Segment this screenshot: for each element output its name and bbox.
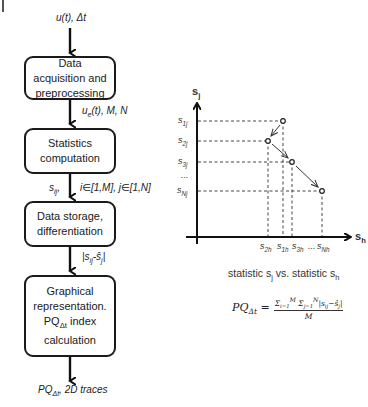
data-points bbox=[266, 119, 325, 194]
output-label: PQΔt, 2D traces bbox=[38, 384, 107, 397]
x-tick-s1h: s1h bbox=[277, 241, 289, 253]
pq-formula: PQΔt = Σi=1M Σj=1N|sij−ŝj| M bbox=[232, 296, 343, 321]
y-tick-s1j: s1j bbox=[178, 115, 187, 127]
step-graphical-representation: Graphicalrepresentation.PQΔt indexcalcul… bbox=[24, 275, 116, 357]
y-tick-s3j: s3j bbox=[178, 156, 187, 168]
step-statistics-computation: Statistics computation bbox=[24, 128, 116, 174]
formula-lhs: PQΔt = bbox=[232, 301, 270, 316]
x-tick-sNh: sNh bbox=[317, 241, 330, 253]
y-tick-ellipsis: ... bbox=[181, 170, 189, 180]
edge-label-indices: i∈[1,M], j∈[1,N] bbox=[80, 182, 151, 193]
formula-numerator: Σi=1M Σj=1N|sij−ŝj| bbox=[274, 296, 344, 311]
x-axis-label: sh bbox=[355, 230, 366, 245]
plot-caption: statistic sj vs. statistic sh bbox=[228, 267, 339, 282]
step-label: Graphicalrepresentation.PQΔt indexcalcul… bbox=[29, 284, 110, 348]
edge-label-ue: ue(t), M, N bbox=[82, 105, 128, 118]
edge-label-sij: sij, bbox=[49, 182, 60, 195]
x-tick-s3h: s3h bbox=[292, 241, 304, 253]
step-data-acquisition: Data acquisition and preprocessing bbox=[24, 56, 116, 100]
x-tick-s2h: s2h bbox=[260, 241, 272, 253]
y-tick-s2j: s2j bbox=[178, 135, 187, 147]
input-label: u(t), Δt bbox=[56, 12, 86, 23]
edge-label-diff: |sij-ŝj| bbox=[82, 251, 105, 264]
x-tick-ellipsis: ... bbox=[308, 241, 316, 251]
step-label: Statistics computation bbox=[26, 136, 114, 166]
y-axis-label: sj bbox=[192, 85, 200, 100]
formula-denominator: M bbox=[305, 311, 313, 321]
step-label: Data storage, differentiation bbox=[26, 209, 114, 239]
formula-fraction: Σi=1M Σj=1N|sij−ŝj| M bbox=[274, 296, 344, 321]
y-tick-sNj: sNj bbox=[177, 185, 187, 197]
step-label: Data acquisition and preprocessing bbox=[26, 56, 114, 101]
step-data-storage: Data storage, differentiation bbox=[24, 201, 116, 247]
